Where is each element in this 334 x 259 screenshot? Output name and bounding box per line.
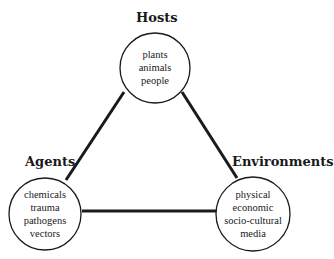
node-item: trauma <box>5 201 85 214</box>
node-title-hosts: Hosts <box>136 10 178 25</box>
node-item: socio-cultural <box>208 214 298 227</box>
node-items-agents: chemicals trauma pathogens vectors <box>5 188 85 240</box>
node-item: animals <box>115 61 195 74</box>
node-item: chemicals <box>5 188 85 201</box>
node-title-environments: Environments <box>232 154 334 169</box>
node-item: economic <box>208 201 298 214</box>
node-items-environments: physical economic socio-cultural media <box>208 188 298 240</box>
node-item: physical <box>208 188 298 201</box>
edge-hosts-environments <box>182 92 237 178</box>
node-item: pathogens <box>5 214 85 227</box>
node-item: plants <box>115 48 195 61</box>
node-items-hosts: plants animals people <box>115 48 195 87</box>
node-title-agents: Agents <box>25 154 75 169</box>
node-item: media <box>208 227 298 240</box>
node-item: vectors <box>5 227 85 240</box>
node-item: people <box>115 74 195 87</box>
